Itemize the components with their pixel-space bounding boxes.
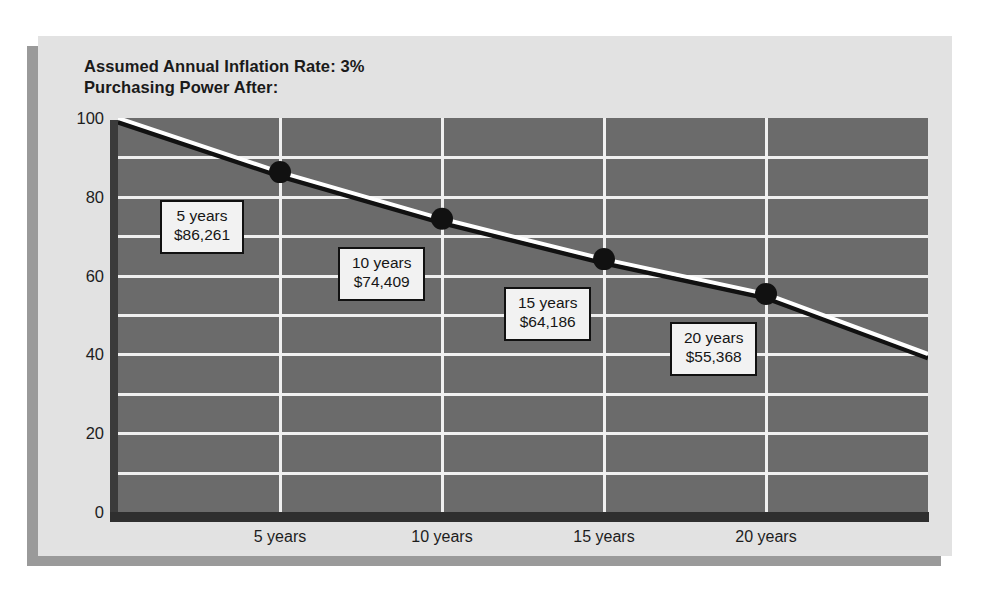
callout-period: 10 years: [352, 254, 411, 273]
data-point-5-years: [269, 161, 291, 183]
x-tick-20-years: 20 years: [735, 528, 796, 546]
callout-amount: $86,261: [174, 226, 230, 245]
callout-amount: $55,368: [684, 348, 743, 367]
data-point-10-years: [431, 208, 453, 230]
y-tick-20: 20: [44, 424, 104, 443]
callout-15-years: 15 years$64,186: [504, 287, 591, 341]
callout-10-years: 10 years$74,409: [338, 247, 425, 301]
plot-floor: [110, 512, 929, 522]
chart-screenshot: Assumed Annual Inflation Rate: 3% Purcha…: [0, 0, 994, 615]
data-point-20-years: [755, 283, 777, 305]
y-tick-100: 100: [44, 109, 104, 128]
chart-subtitle: Purchasing Power After:: [84, 77, 364, 98]
chart-title-block: Assumed Annual Inflation Rate: 3% Purcha…: [84, 56, 364, 98]
chart-card: Assumed Annual Inflation Rate: 3% Purcha…: [38, 36, 952, 556]
y-axis-tick-labels: 020406080100: [38, 118, 104, 512]
callout-amount: $64,186: [518, 313, 577, 332]
callout-amount: $74,409: [352, 273, 411, 292]
x-tick-10-years: 10 years: [411, 528, 472, 546]
x-tick-5-years: 5 years: [254, 528, 306, 546]
data-point-15-years: [593, 248, 615, 270]
y-tick-40: 40: [44, 345, 104, 364]
chart-title: Assumed Annual Inflation Rate: 3%: [84, 56, 364, 77]
x-tick-15-years: 15 years: [573, 528, 634, 546]
callout-5-years: 5 years$86,261: [160, 200, 244, 254]
callout-period: 20 years: [684, 329, 743, 348]
y-tick-60: 60: [44, 266, 104, 285]
y-tick-80: 80: [44, 187, 104, 206]
callout-period: 5 years: [174, 207, 230, 226]
y-tick-0: 0: [44, 503, 104, 522]
callout-period: 15 years: [518, 294, 577, 313]
callout-20-years: 20 years$55,368: [670, 322, 757, 376]
